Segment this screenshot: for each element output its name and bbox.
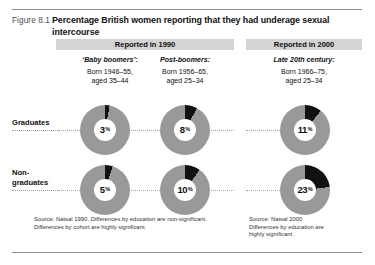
donut-chart: 5% bbox=[80, 165, 130, 215]
donut-unit: % bbox=[185, 125, 190, 135]
source-line2: Differences by education are bbox=[249, 224, 324, 230]
banner-reported-2000: Reported in 2000 bbox=[246, 39, 362, 50]
column-caption-post-boomers: Post-boomers: Born 1956–65, aged 25–34 bbox=[130, 56, 240, 85]
banner-reported-1990: Reported in 1990 bbox=[56, 39, 234, 50]
page-title: Percentage British women reporting that … bbox=[52, 15, 352, 38]
bottom-rule bbox=[12, 252, 362, 253]
leader-line bbox=[211, 190, 234, 192]
column-caption-late-20th-century: Late 20th century: Born 1966–75, aged 25… bbox=[249, 56, 359, 85]
source-line1: Source: Natsal 2000 bbox=[249, 216, 302, 222]
donut-value: 11 bbox=[298, 125, 307, 135]
row-label-graduates: Graduates bbox=[12, 118, 60, 128]
column-aged-label: aged 25–34 bbox=[249, 76, 359, 85]
donut-unit: % bbox=[105, 185, 110, 195]
column-cohort-label: Post-boomers: bbox=[130, 56, 240, 65]
donut-unit: % bbox=[307, 125, 312, 135]
donut-chart: 23% bbox=[280, 165, 330, 215]
figure-header: Figure 8.1Percentage British women repor… bbox=[12, 15, 362, 38]
leader-line bbox=[126, 190, 160, 192]
row-label-leader-graduates bbox=[12, 130, 58, 132]
source-line1: Source: Natsal 1990. Differences by educ… bbox=[34, 216, 207, 222]
row-label-line1: Non- bbox=[12, 168, 29, 177]
donut-value-hole: 8% bbox=[174, 119, 196, 141]
donut-value-hole: 10% bbox=[174, 179, 196, 201]
leader-line bbox=[126, 130, 160, 132]
donut-value-hole: 3% bbox=[94, 119, 116, 141]
leader-line bbox=[211, 130, 234, 132]
source-line2: Differences by cohort are highly signifi… bbox=[34, 224, 145, 230]
source-note-1990: Source: Natsal 1990. Differences by educ… bbox=[34, 216, 229, 231]
row-label-line1: Graduates bbox=[12, 118, 50, 127]
leader-line bbox=[246, 190, 280, 192]
donut-chart: 10% bbox=[160, 165, 210, 215]
donut-value: 10 bbox=[177, 185, 187, 195]
donut-value: 23 bbox=[297, 185, 307, 195]
column-cohort-label: Late 20th century: bbox=[249, 56, 359, 65]
source-note-2000: Source: Natsal 2000 Differences by educa… bbox=[249, 216, 364, 239]
leader-line bbox=[58, 190, 82, 192]
donut-value-hole: 5% bbox=[94, 179, 116, 201]
leader-line bbox=[58, 130, 82, 132]
row-label-line2: graduates bbox=[12, 178, 48, 187]
donut-chart: 3% bbox=[80, 105, 130, 155]
column-born-label: Born 1966–75, bbox=[249, 67, 359, 76]
column-born-label: Born 1956–65, bbox=[130, 67, 240, 76]
top-rule bbox=[12, 9, 362, 10]
figure-panel: Figure 8.1Percentage British women repor… bbox=[0, 0, 375, 265]
donut-chart: 8% bbox=[160, 105, 210, 155]
leader-line bbox=[246, 130, 280, 132]
figure-number: Figure 8.1 bbox=[12, 15, 52, 25]
donut-unit: % bbox=[187, 185, 192, 195]
donut-chart: 11% bbox=[280, 105, 330, 155]
donut-value-hole: 11% bbox=[294, 119, 316, 141]
column-aged-label: aged 25–34 bbox=[130, 76, 240, 85]
donut-unit: % bbox=[105, 125, 110, 135]
row-label-non-graduates: Non- graduates bbox=[12, 168, 60, 187]
donut-unit: % bbox=[307, 185, 312, 195]
donut-value-hole: 23% bbox=[294, 179, 316, 201]
row-label-leader-non-graduates bbox=[12, 190, 58, 192]
source-line3: highly significant bbox=[249, 231, 292, 237]
